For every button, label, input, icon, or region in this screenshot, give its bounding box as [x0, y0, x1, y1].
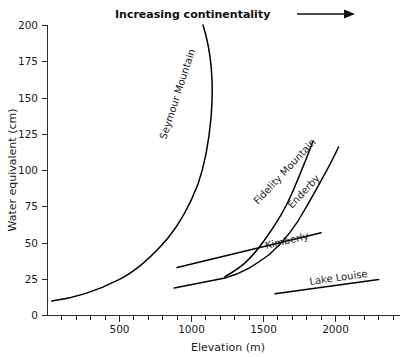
series-label-fidelity-mountain: Fidelity Mountain [251, 136, 317, 206]
y-tick-label-0: 0 [31, 309, 38, 321]
y-tick-label-50: 50 [25, 237, 38, 249]
series-label-seymour-mountain: Seymour Mountain [157, 47, 197, 140]
curve-lower-baseline [174, 278, 225, 288]
chart-figure: Increasing continentality 200 175 150 12… [0, 0, 416, 357]
y-tick-label-150: 150 [18, 92, 38, 104]
y-tick-label-100: 100 [18, 164, 38, 176]
y-tick-label-175: 175 [18, 55, 38, 67]
series-label-kimberly: Kimberly [264, 230, 310, 251]
data-curves [52, 25, 379, 301]
y-tick-label-75: 75 [25, 200, 38, 212]
x-tick-label-1000: 1000 [178, 323, 205, 335]
y-tick-label-200: 200 [18, 19, 38, 31]
x-tick-label-1500: 1500 [250, 323, 277, 335]
y-axis-title: Water equivalent (cm) [6, 109, 19, 232]
continentality-annotation: Increasing continentality [115, 8, 355, 21]
y-axis: 200 175 150 125 100 75 50 25 0 Water equ… [6, 19, 48, 321]
right-arrow-head-icon [344, 10, 355, 19]
continentality-label: Increasing continentality [115, 8, 270, 21]
series-label-enderby: Enderby [285, 172, 321, 210]
chart-svg: Increasing continentality 200 175 150 12… [0, 0, 416, 357]
series-label-lake-louise: Lake Louise [309, 268, 368, 287]
y-tick-label-25: 25 [25, 273, 38, 285]
x-tick-label-500: 500 [109, 323, 129, 335]
x-axis: 500 1000 1500 2000 Elevation (m) [48, 316, 401, 355]
y-tick-label-125: 125 [18, 128, 38, 140]
x-tick-label-2000: 2000 [322, 323, 349, 335]
series-labels: Seymour Mountain Fidelity Mountain Ender… [157, 47, 368, 287]
x-axis-title: Elevation (m) [191, 341, 265, 354]
